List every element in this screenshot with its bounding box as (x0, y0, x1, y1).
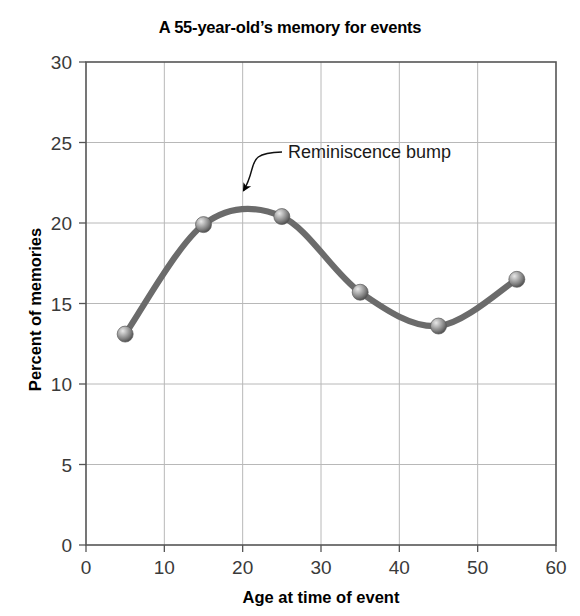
data-point-marker (196, 217, 212, 233)
x-tick-label: 10 (154, 557, 175, 578)
x-tick-label: 50 (467, 557, 488, 578)
y-tick-label: 30 (51, 52, 72, 73)
y-tick-label: 10 (51, 374, 72, 395)
data-point-marker (117, 326, 133, 342)
annotation-label: Reminiscence bump (288, 142, 451, 162)
x-tick-label: 0 (81, 557, 92, 578)
plot-area: 051015202530 0102030405060 Reminiscence … (0, 0, 580, 616)
y-tick-label: 20 (51, 213, 72, 234)
annotation-arrow (244, 152, 282, 190)
data-point-marker (352, 284, 368, 300)
x-tick-label: 60 (545, 557, 566, 578)
chart-figure: A 55-year-old’s memory for events Percen… (0, 0, 580, 616)
y-tick-label: 0 (61, 535, 72, 556)
x-tick-label: 30 (310, 557, 331, 578)
y-tick-labels: 051015202530 (51, 52, 72, 556)
x-tick-labels: 0102030405060 (81, 557, 567, 578)
x-tick-label: 40 (389, 557, 410, 578)
x-tick-label: 20 (232, 557, 253, 578)
y-tick-label: 25 (51, 133, 72, 154)
y-tick-label: 15 (51, 294, 72, 315)
data-point-marker (431, 318, 447, 334)
y-tick-label: 5 (61, 455, 72, 476)
data-point-marker (509, 271, 525, 287)
data-point-marker (274, 209, 290, 225)
